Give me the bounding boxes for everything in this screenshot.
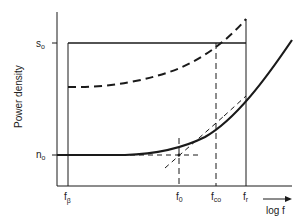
- s0-label: so: [36, 38, 45, 50]
- fr-label: fr: [243, 191, 249, 203]
- power-density-diagram: Power density so no fβ f0 fco fr log f: [0, 0, 306, 221]
- y-axis-label: Power density: [13, 65, 24, 128]
- noise-curve: [57, 40, 292, 155]
- dashed-signal-curve: [68, 19, 246, 87]
- x-axis-label: log f: [266, 205, 285, 216]
- arrowhead-icon: [285, 196, 292, 202]
- fco-label: fco: [211, 191, 221, 203]
- f0-crossing-point: [178, 154, 181, 157]
- n0-label: no: [36, 149, 46, 161]
- f-beta-label: fβ: [64, 191, 71, 205]
- asymptote-dashed: [165, 116, 224, 168]
- f0-label: f0: [176, 191, 183, 203]
